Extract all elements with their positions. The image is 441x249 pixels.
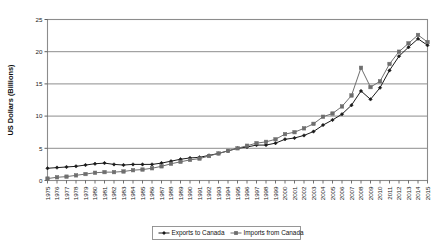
x-tick-label: 1999 [272,186,279,200]
x-tick-label: 1980 [91,186,98,200]
data-point-marker [169,162,173,166]
data-point-marker [141,168,145,172]
x-tick-label: 1989 [177,186,184,200]
x-tick-label: 1996 [243,186,250,200]
data-point-marker [188,158,192,162]
x-tick-label: 2006 [338,186,345,200]
data-point-marker [388,62,392,66]
data-point-marker [150,167,154,171]
data-point-marker [283,132,287,136]
data-point-marker [426,40,430,44]
chart-container: 0510152025 US Dollars (Billions) 1975197… [0,0,441,249]
x-tick-label: 1978 [72,186,79,200]
legend-marker-square-icon [234,231,238,235]
x-tick-label: 1997 [253,186,260,200]
x-tick-label: 1990 [186,186,193,200]
data-point-marker [93,171,97,175]
data-point-marker [226,149,230,153]
data-point-marker [293,130,297,134]
y-tick-label: 0 [39,177,43,184]
x-tick-label: 2012 [395,186,402,200]
x-tick-label: 2000 [281,186,288,200]
data-point-marker [378,80,382,84]
data-point-marker [350,94,354,98]
x-tick-label: 1975 [44,186,51,200]
x-tick-label: 2015 [424,186,431,200]
data-point-marker [264,140,268,144]
y-tick-label: 5 [39,145,43,152]
x-tick-label: 2005 [329,186,336,200]
data-point-marker [302,127,306,131]
x-tick-label: 1994 [224,186,231,200]
data-point-marker [236,147,240,151]
data-point-marker [131,168,135,172]
x-tick-label: 1995 [234,186,241,200]
x-tick-label: 2010 [376,186,383,200]
data-point-marker [122,170,126,174]
x-tick-label: 1987 [158,186,165,200]
data-point-marker [407,42,411,46]
data-point-marker [217,152,221,156]
data-point-marker [74,174,78,178]
x-tick-label: 1992 [205,186,212,200]
x-tick-label: 1979 [82,186,89,200]
data-point-marker [84,172,88,176]
y-axis-title-text: US Dollars (Billions) [6,64,15,136]
x-tick-label: 2004 [319,186,326,200]
data-point-marker [198,157,202,161]
x-tick-label: 1976 [53,186,60,200]
data-point-marker [179,160,183,164]
data-point-marker [274,138,278,142]
x-tick-label: 1985 [139,186,146,200]
data-point-marker [331,112,335,116]
data-point-marker [103,170,107,174]
x-tick-label: 1998 [262,186,269,200]
x-tick-label: 2009 [367,186,374,200]
x-tick-label: 2008 [357,186,364,200]
data-point-marker [416,33,420,37]
x-tick-label: 1986 [148,186,155,200]
x-tick-label: 1981 [101,186,108,200]
x-tick-label: 2001 [291,186,298,200]
data-point-marker [359,66,363,70]
data-point-marker [340,105,344,109]
data-point-marker [321,115,325,119]
x-tick-label: 2013 [405,186,412,200]
x-tick-label: 1984 [129,186,136,200]
y-tick-label: 25 [36,16,43,23]
data-point-marker [255,141,259,145]
x-tick-label: 2007 [348,186,355,200]
data-point-marker [312,122,316,126]
x-tick-label: 1991 [196,186,203,200]
y-tick-label: 10 [36,112,43,119]
line-chart: 0510152025 US Dollars (Billions) 1975197… [0,0,441,249]
data-point-marker [369,85,373,89]
legend-label: Exports to Canada [172,229,225,237]
y-axis-tick-labels: 0510152025 [36,16,43,184]
data-point-marker [207,154,211,158]
x-tick-label: 2002 [300,186,307,200]
x-axis-tick-labels: 1975197619771978197919801981198219831984… [44,186,431,200]
data-point-marker [245,144,249,148]
y-axis-title: US Dollars (Billions) [6,64,15,136]
x-tick-label: 2011 [386,186,393,200]
x-tick-label: 2003 [310,186,317,200]
x-tick-label: 1988 [167,186,174,200]
x-tick-label: 1983 [120,186,127,200]
x-tick-label: 1993 [215,186,222,200]
x-tick-label: 2014 [414,186,421,200]
data-point-marker [65,175,69,179]
data-point-marker [55,176,59,180]
data-point-marker [397,50,401,54]
x-tick-label: 1977 [63,186,70,200]
legend-label: Imports from Canada [244,229,304,237]
y-tick-label: 20 [36,48,43,55]
x-axis-ticks [48,181,428,184]
chart-legend: Exports to CanadaImports from Canada [153,227,304,240]
data-point-marker [160,165,164,169]
data-point-marker [46,177,50,181]
x-tick-label: 1982 [110,186,117,200]
y-tick-label: 15 [36,80,43,87]
data-point-marker [112,170,116,174]
